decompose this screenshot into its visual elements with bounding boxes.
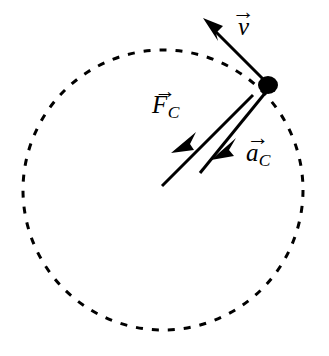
particle-dot [258, 76, 278, 94]
physics-diagram: v→ F→C a→C [0, 0, 329, 356]
acceleration-vector-label: a→C [246, 140, 270, 165]
acceleration-label-arrow-accent: → [246, 127, 268, 150]
force-label-arrow-accent: → [154, 81, 176, 103]
force-vector-head [171, 132, 196, 153]
acceleration-label-subscript: C [259, 150, 271, 170]
circular-motion-canvas [0, 0, 329, 356]
velocity-label-arrow-accent: → [232, 0, 255, 23]
force-vector-label: F→C [152, 92, 179, 117]
velocity-vector-group [203, 18, 266, 82]
force-label-subscript: C [168, 102, 180, 122]
velocity-vector-label: v→ [238, 14, 249, 39]
